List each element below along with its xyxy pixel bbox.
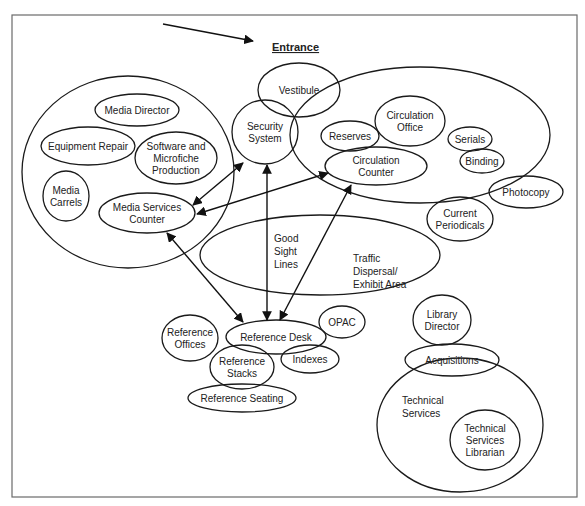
circulation-counter-node: CirculationCounter	[325, 147, 427, 185]
reference-offices-node: ReferenceOffices	[162, 315, 218, 361]
library-director-label: LibraryDirector	[424, 309, 460, 332]
library-layout-diagram: Entrance VestibuleSecuritySystemMedia Di…	[0, 0, 585, 506]
media-counter-to-reference-desk	[167, 233, 243, 322]
binding-node: Binding	[460, 149, 504, 173]
media-services-counter-label: Media ServicesCounter	[113, 202, 181, 225]
reference-stacks-label: ReferenceStacks	[219, 356, 266, 379]
free-labels-layer: GoodSightLines TrafficDispersal/Exhibit …	[274, 233, 444, 419]
binding-label: Binding	[465, 156, 498, 167]
software-microfiche-label: Software andMicroficheProduction	[147, 141, 206, 176]
software-microfiche-node: Software andMicroficheProduction	[135, 132, 217, 184]
media-counter-to-circulation-counter	[197, 173, 328, 214]
media-carrels-label: MediaCarrels	[50, 185, 82, 208]
media-director-label: Media Director	[104, 105, 170, 116]
reference-desk-node: Reference Desk	[226, 320, 326, 354]
good-sight-lines-label: GoodSightLines	[274, 233, 298, 270]
library-director-node: LibraryDirector	[413, 295, 471, 345]
photocopy-node: Photocopy	[489, 176, 563, 208]
equipment-repair-node: Equipment Repair	[41, 127, 135, 165]
technical-services-label: TechnicalServices	[402, 395, 444, 419]
vestibule-label: Vestibule	[279, 85, 320, 96]
entrance-title: Entrance	[272, 41, 319, 53]
reserves-label: Reserves	[329, 131, 371, 142]
serials-label: Serials	[455, 134, 486, 145]
media-director-node: Media Director	[95, 94, 179, 126]
serials-node: Serials	[448, 127, 492, 151]
reference-seating-label: Reference Seating	[201, 393, 284, 404]
entrance-arrow	[163, 24, 253, 41]
reference-offices-label: ReferenceOffices	[167, 327, 214, 350]
circulation-office-node: CirculationOffice	[375, 96, 445, 146]
equipment-repair-label: Equipment Repair	[48, 141, 129, 152]
traffic-dispersal-label: TrafficDispersal/Exhibit Area	[353, 253, 407, 290]
security-system-label: SecuritySystem	[247, 121, 283, 144]
indexes-label: Indexes	[292, 354, 327, 365]
media-counter-to-security	[193, 163, 243, 205]
technical-services-librarian-label: TechnicalServicesLibrarian	[464, 423, 506, 458]
technical-services-librarian-node: TechnicalServicesLibrarian	[450, 410, 520, 470]
media-carrels-node: MediaCarrels	[43, 171, 89, 221]
technical-services-zone-outline	[377, 358, 543, 492]
security-system-node: SecuritySystem	[232, 100, 298, 164]
current-periodicals-node: CurrentPeriodicals	[427, 197, 493, 241]
vestibule-node: Vestibule	[258, 63, 340, 117]
reference-seating-node: Reference Seating	[188, 384, 296, 412]
circulation-counter-label: CirculationCounter	[352, 155, 399, 178]
circulation-office-label: CirculationOffice	[386, 110, 433, 133]
nodes-layer: VestibuleSecuritySystemMedia DirectorEqu…	[41, 63, 563, 470]
photocopy-label: Photocopy	[502, 187, 549, 198]
reference-stacks-node: ReferenceStacks	[210, 345, 274, 389]
opac-label: OPAC	[328, 317, 356, 328]
current-periodicals-label: CurrentPeriodicals	[436, 208, 485, 231]
acquisitions-label: Acquisitions	[425, 355, 478, 366]
reference-desk-label: Reference Desk	[240, 332, 313, 343]
media-services-counter-node: Media ServicesCounter	[99, 193, 195, 233]
acquisitions-node: Acquisitions	[405, 344, 499, 376]
opac-node: OPAC	[319, 306, 365, 338]
